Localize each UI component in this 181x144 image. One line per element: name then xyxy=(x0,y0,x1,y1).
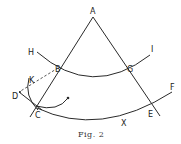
label-E: E xyxy=(148,110,153,119)
label-I: I xyxy=(151,45,153,54)
label-F: F xyxy=(170,83,175,92)
geometry-figure: A H B G I K D C X E F Fig. 2 xyxy=(0,0,181,144)
label-G: G xyxy=(127,65,133,74)
label-C: C xyxy=(35,111,41,120)
line-DC xyxy=(19,92,42,110)
line-AC xyxy=(30,17,93,117)
figure-caption: Fig. 2 xyxy=(78,130,104,139)
dashed-line-BD xyxy=(19,68,58,92)
label-D: D xyxy=(12,92,18,101)
point-D-dot xyxy=(19,91,21,93)
arc-endpoint-dot xyxy=(67,97,70,100)
label-A: A xyxy=(90,7,96,16)
label-K: K xyxy=(29,76,35,85)
label-B: B xyxy=(55,65,61,74)
label-X: X xyxy=(121,119,127,128)
label-H: H xyxy=(28,48,34,57)
